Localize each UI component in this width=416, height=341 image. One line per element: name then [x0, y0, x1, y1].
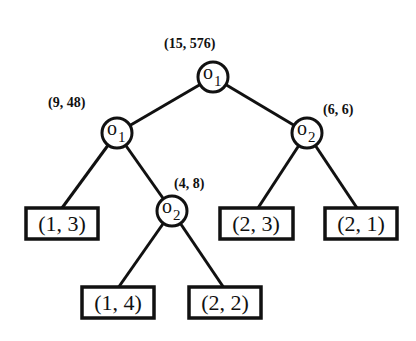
- node-label: (9, 48): [48, 95, 86, 111]
- node-op: o: [297, 117, 307, 139]
- node-op: o: [107, 117, 117, 139]
- leaf-label: (2, 3): [232, 211, 280, 236]
- node-left: (9, 48) o 1: [48, 95, 132, 148]
- node-right: (6, 6) o 2: [292, 102, 354, 148]
- node-label: (6, 6): [323, 102, 354, 118]
- node-root: (15, 576) o 1: [164, 36, 228, 92]
- edge-root-left: [117, 77, 213, 133]
- node-op-sub: 2: [173, 207, 181, 223]
- leaf-label: (1, 3): [38, 211, 86, 236]
- node-op-sub: 1: [118, 129, 126, 145]
- leaf-label: (2, 1): [337, 211, 385, 236]
- leaf-label: (1, 4): [94, 290, 142, 315]
- node-op-sub: 1: [214, 73, 222, 89]
- node-label: (4, 8): [174, 176, 205, 192]
- leaf-2: (1, 4): [82, 287, 154, 318]
- leaf-1: (1, 3): [26, 208, 98, 239]
- node-op-sub: 2: [308, 129, 316, 145]
- leaf-5: (2, 1): [325, 208, 397, 239]
- node-label: (15, 576): [164, 36, 216, 52]
- leaf-4: (2, 3): [220, 208, 293, 239]
- leaf-3: (2, 2): [189, 287, 261, 318]
- leaf-label: (2, 2): [201, 290, 249, 315]
- node-op: o: [203, 61, 213, 83]
- node-op: o: [162, 195, 172, 217]
- tree-diagram: (15, 576) o 1 (9, 48) o 1 (6, 6) o 2 (4,…: [0, 0, 416, 341]
- node-leftright: (4, 8) o 2: [157, 176, 205, 226]
